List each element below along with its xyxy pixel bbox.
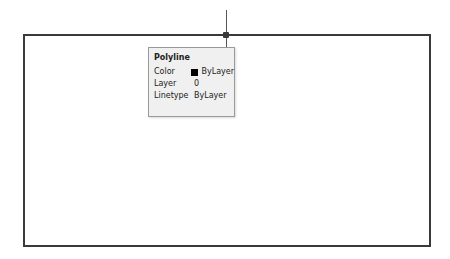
tooltip-row-layer: Layer 0	[154, 78, 234, 90]
crosshair-cursor	[226, 10, 227, 48]
grip-point[interactable]	[223, 32, 229, 38]
tooltip-row-color: Color ByLayer	[154, 66, 234, 78]
property-value: ByLayer	[194, 90, 227, 102]
tooltip-row-linetype: Linetype ByLayer	[154, 90, 234, 102]
drawing-canvas[interactable]: Polyline Color ByLayer Layer 0 Linetype …	[0, 0, 450, 259]
property-value: 0	[194, 78, 199, 90]
property-label: Linetype	[154, 90, 194, 102]
property-label: Color	[154, 66, 191, 78]
property-value: ByLayer	[201, 66, 234, 78]
color-swatch-icon	[191, 69, 198, 76]
tooltip-title: Polyline	[154, 53, 234, 62]
property-label: Layer	[154, 78, 194, 90]
rollover-tooltip: Polyline Color ByLayer Layer 0 Linetype …	[148, 47, 235, 117]
